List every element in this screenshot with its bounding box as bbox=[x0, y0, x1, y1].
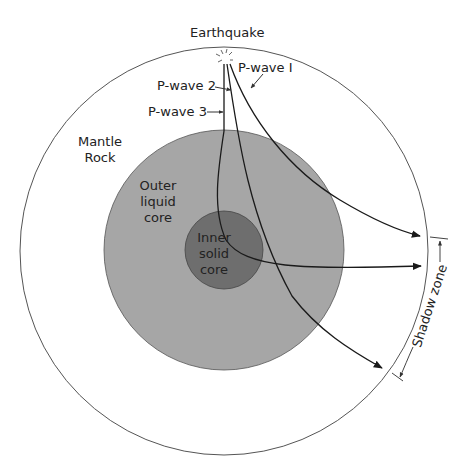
p-wave-3-label: P-wave 3 bbox=[148, 104, 207, 120]
mantle-rock-label: Mantle Rock bbox=[74, 134, 126, 166]
p-wave-1-label: P-wave I bbox=[238, 60, 293, 76]
earthquake-label: Earthquake bbox=[190, 25, 260, 41]
inner-core-label-line1: Inner bbox=[190, 230, 238, 246]
mantle-label-line1: Mantle bbox=[74, 134, 126, 150]
outer-core-label-line2: liquid bbox=[134, 194, 182, 210]
p-wave-2-label: P-wave 2 bbox=[157, 78, 216, 94]
inner-core-label: Inner solid core bbox=[190, 230, 238, 278]
inner-core-label-line3: core bbox=[190, 262, 238, 278]
inner-core-label-line2: solid bbox=[190, 246, 238, 262]
outer-core-label-line1: Outer bbox=[134, 178, 182, 194]
mantle-label-line2: Rock bbox=[74, 150, 126, 166]
outer-core-label: Outer liquid core bbox=[134, 178, 182, 226]
outer-core-label-line3: core bbox=[134, 210, 182, 226]
